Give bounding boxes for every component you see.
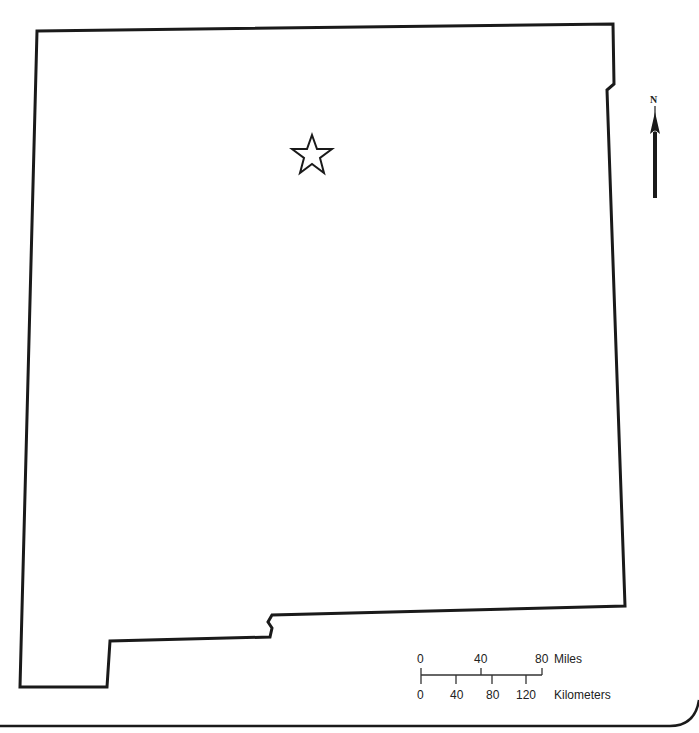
north-arrow-icon [650,106,660,198]
north-label: N [650,94,657,106]
scale-km-tick-120: 120 [516,689,536,701]
state-outline [20,24,625,687]
star-icon [292,135,332,173]
scale-miles-tick-40: 40 [474,653,487,665]
scale-bar [421,668,542,684]
scale-miles-tick-0: 0 [417,653,424,665]
map-canvas [0,0,699,733]
scale-km-tick-80: 80 [486,689,499,701]
scale-miles-label: Miles [554,653,582,665]
scale-km-tick-40: 40 [450,689,463,701]
scale-miles-tick-80: 80 [535,653,548,665]
scale-km-label: Kilometers [554,689,611,701]
scale-km-tick-0: 0 [417,689,424,701]
frame-border [0,700,699,726]
